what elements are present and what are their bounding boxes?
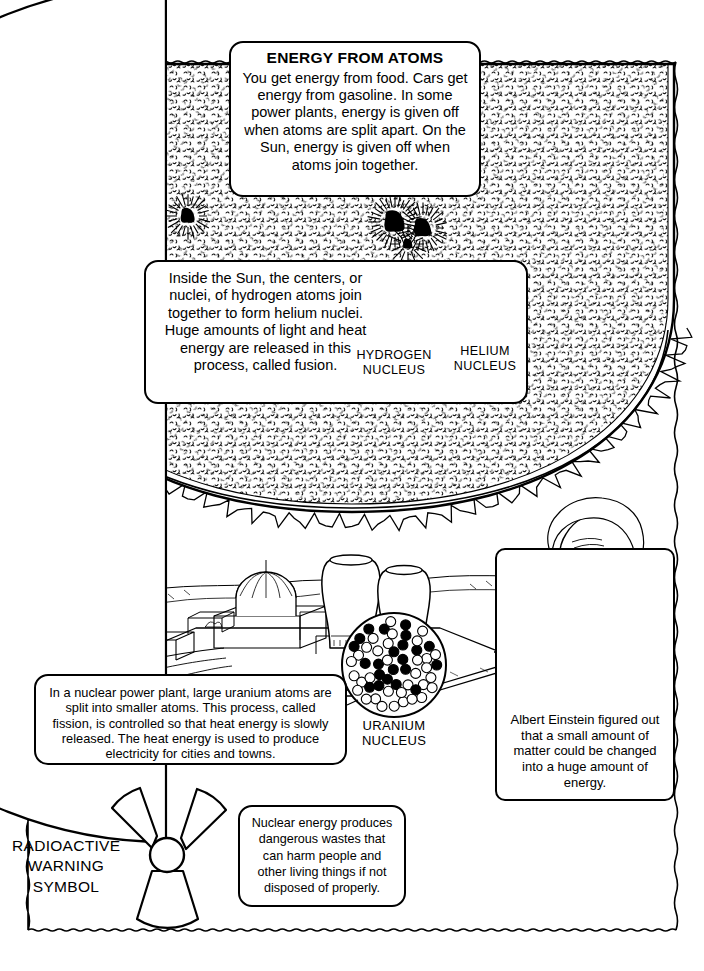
hydrogen-nucleus-label: HYDROGEN NUCLEUS [352, 348, 436, 378]
helium-nucleus-label: HELIUM NUCLEUS [448, 344, 522, 374]
fusion-body-text: Inside the Sun, the centers, or nuclei, … [158, 270, 373, 374]
einstein-panel: Albert Einstein figured out that a small… [495, 548, 675, 801]
worksheet-page: ENERGY FROM ATOMS You get energy from fo… [0, 0, 704, 971]
text-box-layer: ENERGY FROM ATOMS You get energy from fo… [0, 0, 704, 971]
page-title: ENERGY FROM ATOMS [241, 49, 469, 68]
title-text-box: ENERGY FROM ATOMS You get energy from fo… [229, 41, 481, 197]
radioactive-symbol-label: RADIOACTIVE WARNING SYMBOL [12, 836, 120, 897]
waste-body-text: Nuclear energy produces dangerous wastes… [249, 815, 395, 897]
nuclear-waste-text-box: Nuclear energy produces dangerous wastes… [238, 805, 406, 907]
fusion-text-box: Inside the Sun, the centers, or nuclei, … [144, 260, 528, 404]
fission-body-text: In a nuclear power plant, large uranium … [44, 685, 337, 762]
uranium-nucleus-label: URANIUM NUCLEUS [348, 718, 440, 749]
fission-text-box: In a nuclear power plant, large uranium … [34, 674, 347, 765]
einstein-caption: Albert Einstein figured out that a small… [503, 712, 667, 791]
title-body-text: You get energy from food. Cars get energ… [241, 70, 469, 174]
